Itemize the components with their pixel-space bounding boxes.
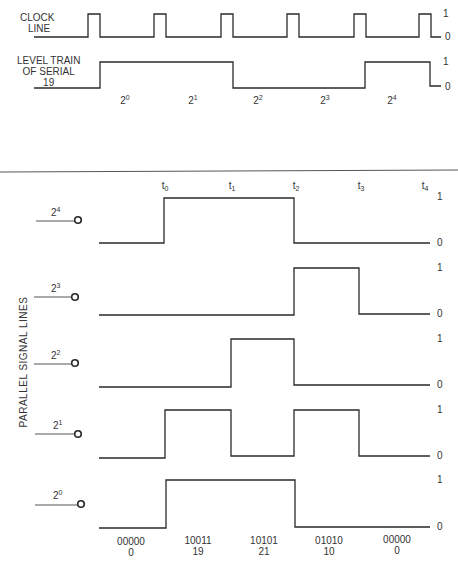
- time-label: t1: [229, 180, 236, 191]
- terminal-2-3-icon: [72, 294, 79, 301]
- word-value: 1010121: [250, 535, 278, 557]
- clock-line-label: CLOCK LINE: [18, 12, 54, 34]
- parallel-line-label-2-1: 21: [53, 420, 62, 431]
- terminal-2-2-icon: [72, 360, 79, 367]
- time-label: t0: [162, 180, 169, 191]
- parallel-waveform-2-3: [99, 268, 430, 315]
- serial-bit-label: 24: [387, 95, 396, 106]
- parallel-waveform-2-2: [99, 339, 430, 387]
- level-one-2-1: 1: [437, 404, 443, 415]
- serial-waveform: [34, 62, 441, 88]
- level-zero-2-2: 0: [437, 379, 443, 390]
- level-zero-2-4: 0: [437, 237, 443, 248]
- section-divider: [0, 170, 458, 172]
- serial-bit-label: 22: [253, 95, 262, 106]
- word-value: 000000: [117, 536, 145, 558]
- parallel-waveform-2-0: [99, 480, 430, 528]
- parallel-line-label-2-4: 24: [51, 207, 60, 218]
- word-value: 0101010: [315, 535, 343, 557]
- parallel-waveform-2-1: [99, 410, 430, 458]
- clock-level-one: 1: [443, 8, 449, 19]
- level-one-2-0: 1: [437, 474, 443, 485]
- level-one-2-3: 1: [437, 262, 443, 273]
- level-zero-2-3: 0: [437, 308, 443, 319]
- serial-train-label: LEVEL TRAIN OF SERIAL 19: [17, 55, 80, 88]
- parallel-lines-axis-title: PARALLEL SIGNAL LINES: [18, 297, 29, 428]
- terminal-2-0-icon: [78, 501, 85, 508]
- parallel-waveform-2-4: [99, 198, 430, 243]
- word-value: 1001119: [184, 535, 211, 557]
- level-zero-2-1: 0: [437, 450, 443, 461]
- terminal-2-1-icon: [75, 431, 82, 438]
- clock-level-zero: 0: [445, 31, 451, 42]
- level-zero-2-0: 0: [437, 521, 443, 532]
- level-one-2-4: 1: [437, 191, 443, 202]
- parallel-line-label-2-2: 22: [51, 350, 60, 361]
- serial-bit-label: 20: [120, 95, 129, 106]
- time-label: t3: [358, 180, 365, 191]
- parallel-line-label-2-3: 23: [51, 283, 60, 294]
- terminal-2-4-icon: [75, 217, 82, 224]
- level-one-2-2: 1: [437, 333, 443, 344]
- serial-level-zero: 0: [445, 81, 451, 92]
- clock-waveform: [34, 14, 441, 37]
- serial-bit-label: 23: [320, 95, 329, 106]
- serial-bit-label: 21: [188, 95, 197, 106]
- word-value: 000000: [383, 534, 411, 556]
- serial-level-one: 1: [443, 56, 449, 67]
- parallel-line-label-2-0: 20: [53, 490, 62, 501]
- time-label: t4: [422, 180, 429, 191]
- time-label: t2: [293, 180, 300, 191]
